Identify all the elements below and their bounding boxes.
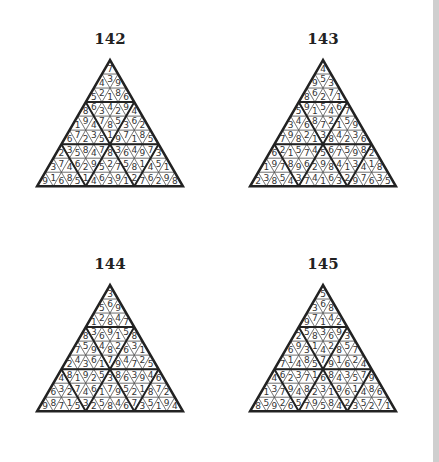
cell-digit: 9 xyxy=(164,173,170,183)
cell-digit: 5 xyxy=(361,398,367,408)
cell-digit: 7 xyxy=(304,148,310,158)
cell-digit: 6 xyxy=(123,373,129,383)
cell-digit: 1 xyxy=(67,398,73,408)
cell-digit: 4 xyxy=(107,102,113,112)
cell-digit: 7 xyxy=(156,384,162,394)
cell-digit: 3 xyxy=(131,341,137,351)
cell-digit: 6 xyxy=(123,148,129,158)
cell-digit: 4 xyxy=(328,313,334,323)
cell-digit: 1 xyxy=(336,355,342,365)
cell-digit: 4 xyxy=(296,387,302,397)
cell-digit: 2 xyxy=(99,88,105,98)
puzzle-142: 142 743952186863429419478536267235197185… xyxy=(5,0,215,225)
cell-digit: 2 xyxy=(156,176,162,186)
puzzle-145: 145 536897142258369369314285771485791624… xyxy=(218,230,428,455)
cell-digit: 5 xyxy=(148,398,154,408)
cell-digit: 9 xyxy=(296,162,302,172)
puzzle-grid: 5368971422583693693142857714857916244623… xyxy=(218,230,428,455)
cell-digit: 7 xyxy=(107,384,113,394)
cell-digit: 7 xyxy=(312,313,318,323)
puzzle-grid: 4953862715915467346872159798213842366215… xyxy=(218,0,428,225)
cell-digit: 3 xyxy=(353,130,359,140)
cell-digit: 1 xyxy=(131,134,137,144)
cell-digit: 1 xyxy=(107,92,113,102)
cell-digit: 9 xyxy=(272,159,278,169)
cell-digit: 3 xyxy=(296,370,302,380)
cell-digit: 6 xyxy=(59,176,65,186)
cell-digit: 9 xyxy=(140,148,146,158)
cell-digit: 4 xyxy=(312,173,318,183)
cell-digit: 6 xyxy=(369,176,375,186)
cell-digit: 5 xyxy=(263,398,269,408)
cell-digit: 3 xyxy=(91,130,97,140)
puzzle-143: 143 495386271591546734687215979821384236… xyxy=(218,0,428,225)
cell-digit: 8 xyxy=(107,120,113,130)
cell-digit: 1 xyxy=(75,373,81,383)
cell-digit: 2 xyxy=(91,373,97,383)
cell-digit: 5 xyxy=(344,145,350,155)
cell-digit: 4 xyxy=(75,355,81,365)
cell-digit: 7 xyxy=(131,359,137,369)
cell-digit: 8 xyxy=(67,173,73,183)
puzzle-grid: 3569128478369158759482631243617947254819… xyxy=(5,230,215,455)
cell-digit: 2 xyxy=(107,159,113,169)
cell-digit: 2 xyxy=(83,134,89,144)
cell-digit: 5 xyxy=(320,102,326,112)
cell-digit: 9 xyxy=(83,116,89,126)
cell-digit: 1 xyxy=(288,148,294,158)
cell-digit: 8 xyxy=(304,355,310,365)
cell-digit: 1 xyxy=(50,173,56,183)
cell-digit: 9 xyxy=(288,130,294,140)
cell-digit: 9 xyxy=(107,327,113,337)
cell-digit: 1 xyxy=(320,176,326,186)
right-edge-scrollbar xyxy=(433,0,439,462)
cell-digit: 6 xyxy=(99,331,105,341)
cell-digit: 7 xyxy=(328,88,334,98)
cell-digit: 4 xyxy=(83,387,89,397)
cell-digit: 6 xyxy=(148,173,154,183)
cell-digit: 9 xyxy=(320,159,326,169)
cell-digit: 8 xyxy=(296,134,302,144)
cell-digit: 8 xyxy=(312,331,318,341)
cell-digit: 8 xyxy=(107,401,113,411)
cell-digit: 6 xyxy=(312,88,318,98)
cell-digit: 3 xyxy=(320,327,326,337)
cell-digit: 7 xyxy=(59,159,65,169)
cell-digit: 3 xyxy=(263,173,269,183)
cell-digit: 7 xyxy=(304,373,310,383)
cell-digit: 7 xyxy=(361,173,367,183)
cell-digit: 6 xyxy=(107,299,113,309)
cell-digit: 4 xyxy=(328,106,334,116)
cell-digit: 5 xyxy=(344,341,350,351)
cell-digit: 1 xyxy=(320,317,326,327)
cell-digit: 1 xyxy=(312,106,318,116)
cell-digit: 2 xyxy=(131,387,137,397)
cell-digit: 5 xyxy=(156,159,162,169)
cell-digit: 2 xyxy=(99,313,105,323)
cell-digit: 9 xyxy=(296,341,302,351)
cell-digit: 2 xyxy=(369,401,375,411)
cell-digit: 4 xyxy=(131,145,137,155)
cell-digit: 3 xyxy=(320,384,326,394)
cell-digit: 4 xyxy=(296,116,302,126)
cell-digit: 4 xyxy=(336,373,342,383)
cell-digit: 8 xyxy=(369,384,375,394)
cell-digit: 5 xyxy=(320,401,326,411)
cell-digit: 7 xyxy=(123,130,129,140)
cell-digit: 7 xyxy=(75,130,81,140)
puzzle-144: 144 356912847836915875948263124361794725… xyxy=(5,230,215,455)
cell-digit: 5 xyxy=(353,373,359,383)
cell-digit: 8 xyxy=(140,130,146,140)
cell-digit: 8 xyxy=(107,317,113,327)
cell-digit: 7 xyxy=(336,148,342,158)
cell-digit: 6 xyxy=(91,355,97,365)
cell-digit: 4 xyxy=(320,345,326,355)
cell-digit: 6 xyxy=(344,359,350,369)
cell-digit: 8 xyxy=(328,398,334,408)
cell-digit: 4 xyxy=(296,359,302,369)
cell-digit: 2 xyxy=(344,134,350,144)
cell-digit: 1 xyxy=(344,162,350,172)
cell-digit: 1 xyxy=(288,355,294,365)
cell-digit: 9 xyxy=(164,398,170,408)
cell-digit: 3 xyxy=(107,74,113,84)
